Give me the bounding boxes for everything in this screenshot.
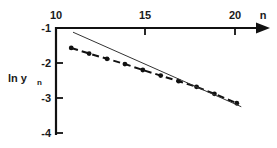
x-tick-label-10: 10 (50, 9, 62, 21)
y-tick-label-minus2: -2 (41, 57, 51, 69)
data-point (105, 56, 110, 61)
data-point (87, 51, 92, 56)
data-point (123, 62, 128, 67)
data-point (140, 68, 145, 73)
y-axis-label-base: ln y (8, 72, 28, 84)
x-tick-label-20: 20 (229, 9, 241, 21)
figure-container: 10 15 20 n -1 -2 -3 -4 ln y n (0, 0, 277, 148)
y-tick-label-minus4: -4 (41, 127, 52, 139)
series-line-reference-line (73, 32, 241, 107)
x-axis (55, 23, 270, 34)
x-axis-label: n (260, 9, 267, 21)
series-layer (69, 32, 241, 107)
y-axis-label: ln y n (8, 72, 42, 87)
y-tick-label-minus3: -3 (41, 92, 51, 104)
data-point (69, 46, 74, 51)
data-point (158, 73, 163, 78)
plot-canvas: 10 15 20 n -1 -2 -3 -4 ln y n (0, 0, 277, 148)
y-axis-label-subscript: n (37, 78, 42, 87)
x-tick-label-15: 15 (139, 9, 151, 21)
series-line-data (71, 48, 237, 103)
x-axis-arrowhead (256, 23, 270, 34)
y-tick-label-minus1: -1 (41, 22, 51, 34)
